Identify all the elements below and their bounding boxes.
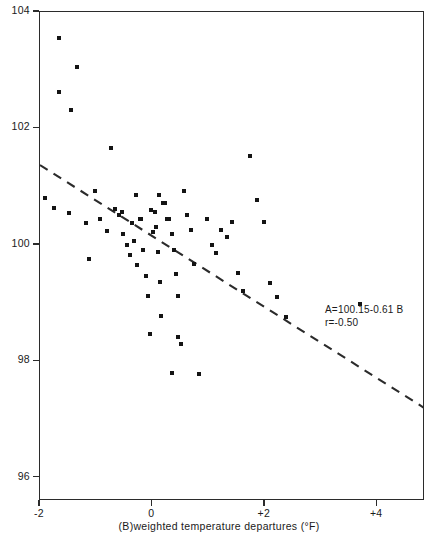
data-point	[135, 263, 139, 267]
data-point	[159, 314, 163, 318]
trendline	[40, 12, 423, 499]
data-point	[98, 217, 102, 221]
data-point	[154, 225, 158, 229]
x-tick-mark	[376, 500, 377, 506]
y-tick-label: 104	[12, 4, 30, 16]
data-point	[113, 207, 117, 211]
x-tick-mark	[38, 500, 39, 506]
data-point	[167, 217, 171, 221]
data-point	[128, 253, 132, 257]
data-point	[189, 228, 193, 232]
data-point	[117, 213, 121, 217]
x-tick-mark	[151, 500, 152, 506]
data-point	[275, 295, 279, 299]
data-point	[248, 154, 252, 158]
data-point	[87, 257, 91, 261]
data-point	[105, 229, 109, 233]
x-tick-label: +2	[258, 507, 271, 519]
data-point	[57, 90, 61, 94]
data-point	[230, 220, 234, 224]
data-point	[170, 371, 174, 375]
data-point	[179, 342, 183, 346]
y-tick-label: 98	[18, 353, 30, 365]
data-point	[93, 189, 97, 193]
data-point	[157, 193, 161, 197]
data-point	[176, 335, 180, 339]
data-point	[75, 65, 79, 69]
data-point	[174, 272, 178, 276]
data-point	[241, 289, 245, 293]
data-point	[219, 228, 223, 232]
data-point	[268, 281, 272, 285]
data-point	[176, 294, 180, 298]
data-point	[172, 248, 176, 252]
data-point	[69, 108, 73, 112]
data-point	[144, 274, 148, 278]
data-point	[284, 315, 288, 319]
cropped-caption-strip	[60, 0, 400, 3]
data-point	[132, 239, 136, 243]
correlation-coefficient-text: r=-0.50	[325, 316, 403, 329]
data-point	[146, 294, 150, 298]
x-tick-label: -2	[34, 507, 44, 519]
data-point	[67, 211, 71, 215]
data-point	[57, 36, 61, 40]
data-point	[120, 210, 124, 214]
regression-equation-text: A=100.15-0.61 B	[325, 303, 403, 316]
data-point	[121, 232, 125, 236]
data-point	[163, 201, 167, 205]
y-tick-label: 100	[12, 237, 30, 249]
equation-annotation: A=100.15-0.61 B r=-0.50	[325, 303, 403, 329]
data-point	[255, 198, 259, 202]
data-point	[151, 230, 155, 234]
regression-line	[40, 165, 423, 408]
x-tick-label: +4	[370, 507, 383, 519]
data-point	[141, 248, 145, 252]
x-tick-label: 0	[148, 507, 154, 519]
x-tick-mark	[263, 500, 264, 506]
x-axis-title: (B)weighted temperature departures (°F)	[0, 520, 438, 532]
plot-area	[40, 12, 423, 499]
y-axis-title-container: (A)total electricity generation (100 = n…	[14, 0, 15, 538]
data-point	[210, 243, 214, 247]
data-point	[43, 196, 47, 200]
data-point	[156, 250, 160, 254]
y-tick-label: 102	[12, 120, 30, 132]
data-point	[134, 193, 138, 197]
plot-frame	[39, 11, 424, 500]
data-point	[130, 221, 134, 225]
data-point	[158, 280, 162, 284]
data-point	[192, 262, 196, 266]
data-point	[197, 372, 201, 376]
data-point	[148, 332, 152, 336]
data-point	[170, 232, 174, 236]
data-point	[225, 235, 229, 239]
data-point	[109, 146, 113, 150]
data-point	[125, 243, 129, 247]
data-point	[185, 213, 189, 217]
data-point	[236, 271, 240, 275]
data-point	[214, 251, 218, 255]
y-tick-label: 96	[18, 470, 30, 482]
data-point	[139, 217, 143, 221]
data-point	[153, 210, 157, 214]
data-point	[84, 221, 88, 225]
data-point	[205, 217, 209, 221]
data-point	[52, 206, 56, 210]
data-point	[262, 220, 266, 224]
data-point	[182, 189, 186, 193]
